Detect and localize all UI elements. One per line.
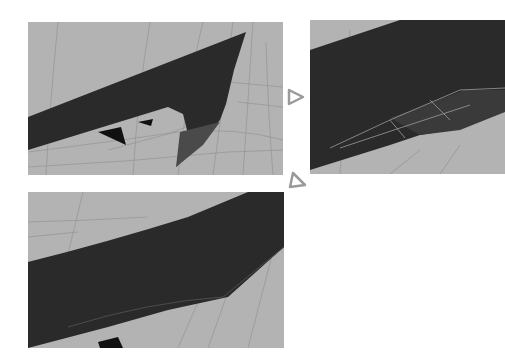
- triangle-right-icon: [286, 87, 306, 107]
- mesh-render-3: [28, 192, 284, 348]
- triangle-upleft-icon: [288, 170, 308, 190]
- viewport-panel-2: [310, 20, 505, 174]
- viewport-panel-3: [28, 192, 284, 348]
- mesh-render-2: [310, 20, 505, 174]
- viewport-panel-1: [28, 22, 283, 175]
- mesh-render-1: [28, 22, 283, 175]
